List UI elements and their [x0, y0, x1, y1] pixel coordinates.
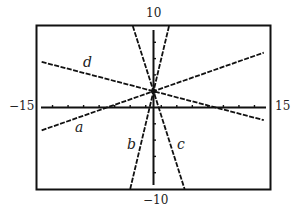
curve-label-c: c	[177, 137, 185, 151]
curve-label-a: a	[75, 120, 83, 134]
xmin-label: −15	[9, 100, 34, 112]
xmax-label: 15	[275, 100, 290, 112]
ymin-label: −10	[143, 194, 168, 206]
intersection-point	[151, 89, 156, 94]
graph-plot	[0, 0, 294, 211]
curve-label-d: d	[83, 55, 92, 69]
curve-label-b: b	[127, 137, 136, 151]
axes	[41, 30, 266, 185]
ymax-label: 10	[146, 7, 161, 19]
